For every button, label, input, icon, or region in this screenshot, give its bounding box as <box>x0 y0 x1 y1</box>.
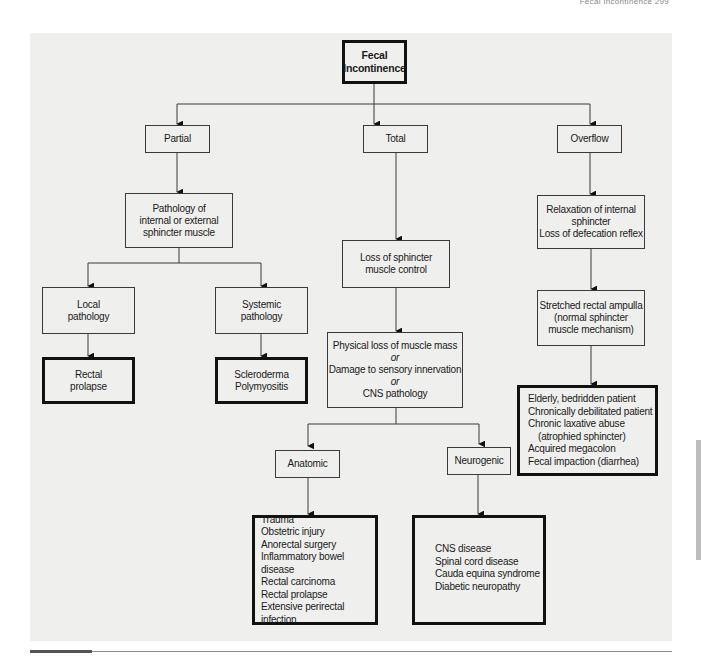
text-line: Damage to sensory innervation <box>329 364 462 376</box>
node-local-pathology: Local pathology <box>42 287 135 334</box>
node-overflow-causes: Elderly, bedridden patient Chronically d… <box>517 385 658 476</box>
list-item: Trauma <box>261 514 375 527</box>
list-item: Acquired megacolon <box>528 443 652 456</box>
footer-rule-accent <box>30 650 92 653</box>
node-anatomic-causes: Trauma Obstetric injury Anorectal surger… <box>252 515 378 625</box>
list-item: Anorectal surgery <box>261 539 375 552</box>
node-partial: Partial <box>145 125 210 153</box>
text-line: internal or external <box>140 215 219 227</box>
root-line-2: Incontinence <box>343 62 405 75</box>
text-line: Loss of sphincter <box>360 252 432 264</box>
text-line: CNS pathology <box>329 388 462 400</box>
text-line-or: or <box>329 376 462 388</box>
text-line: Pathology of <box>140 203 219 215</box>
list-item: (atrophied sphincter) <box>528 431 652 444</box>
text-line: (normal sphincter <box>539 312 642 324</box>
node-neurogenic-causes: CNS disease Spinal cord disease Cauda eq… <box>412 515 546 625</box>
text-line: sphincter <box>539 216 642 228</box>
text-line: Stretched rectal ampulla <box>539 300 642 312</box>
node-partial-label: Partial <box>164 133 191 145</box>
page-edge-strip <box>696 440 701 560</box>
node-anatomic-label: Anatomic <box>287 458 327 470</box>
text-line: muscle mechanism) <box>539 324 642 336</box>
node-relaxation-internal-sphincter: Relaxation of internal sphincter Loss of… <box>537 195 645 249</box>
text-line: Polymyositis <box>234 381 289 393</box>
text-line: Physical loss of muscle mass <box>329 340 462 352</box>
list-item: Extensive perirectal infection <box>261 601 375 626</box>
node-neurogenic: Neurogenic <box>447 447 511 475</box>
text-line: Scleroderma <box>234 369 289 381</box>
node-rectal-prolapse: Rectal prolapse <box>42 357 135 404</box>
node-sphincter-pathology: Pathology of internal or external sphinc… <box>125 193 233 248</box>
list-item: Fecal impaction (diarrhea) <box>528 456 652 469</box>
footer-rule <box>30 651 672 652</box>
list-item: Cauda equina syndrome <box>435 568 540 581</box>
node-overflow-label: Overflow <box>571 133 609 145</box>
list-item: CNS disease <box>435 543 540 556</box>
text-line: sphincter muscle <box>140 227 219 239</box>
node-total: Total <box>363 125 428 153</box>
text-line: Relaxation of internal <box>539 204 642 216</box>
node-systemic-pathology: Systemic pathology <box>215 287 308 334</box>
list-item: Rectal carcinoma <box>261 576 375 589</box>
text-line: prolapse <box>70 381 107 393</box>
text-line: Loss of defecation reflex <box>539 228 642 240</box>
node-anatomic: Anatomic <box>275 450 340 478</box>
node-total-label: Total <box>385 133 405 145</box>
list-item: Rectal prolapse <box>261 589 375 602</box>
text-line: Systemic <box>241 299 283 311</box>
text-line: Rectal <box>70 369 107 381</box>
list-item: Spinal cord disease <box>435 556 540 569</box>
node-total-mechanism: Physical loss of muscle mass or Damage t… <box>327 332 463 408</box>
running-head: Fecal Incontinence 299 <box>580 0 669 6</box>
text-line: Local <box>68 299 110 311</box>
text-line-or: or <box>329 352 462 364</box>
list-item: Inflammatory bowel disease <box>261 551 375 576</box>
list-item: Chronic laxative abuse <box>528 418 652 431</box>
root-node-fecal-incontinence: Fecal Incontinence <box>342 40 407 84</box>
text-line: pathology <box>241 311 283 323</box>
text-line: pathology <box>68 311 110 323</box>
node-scleroderma-polymyositis: Scleroderma Polymyositis <box>215 357 308 404</box>
list-item: Chronically debilitated patient <box>528 406 652 419</box>
list-item: Obstetric injury <box>261 526 375 539</box>
node-overflow: Overflow <box>557 125 622 153</box>
list-item: Elderly, bedridden patient <box>528 393 652 406</box>
text-line: muscle control <box>360 264 432 276</box>
node-stretched-rectal-ampulla: Stretched rectal ampulla (normal sphinct… <box>537 290 645 346</box>
list-item: Diabetic neuropathy <box>435 581 540 594</box>
root-line-1: Fecal <box>343 49 405 62</box>
node-loss-sphincter-control: Loss of sphincter muscle control <box>342 240 450 288</box>
node-neurogenic-label: Neurogenic <box>454 455 503 467</box>
